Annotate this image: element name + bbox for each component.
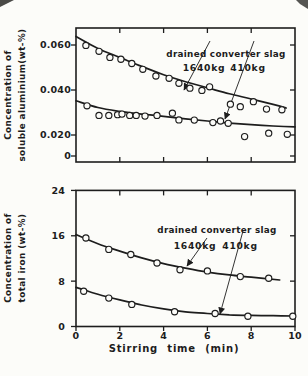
data-point-410kg <box>225 120 231 126</box>
data-point-1640kg <box>227 101 233 107</box>
y-tick-label: 0.020 <box>40 129 71 140</box>
data-point-1640kg <box>154 260 160 266</box>
data-point-1640kg <box>263 106 269 112</box>
data-point-410kg <box>106 295 112 301</box>
data-point-410kg <box>290 313 296 319</box>
scan-artifact-top-left <box>0 0 14 7</box>
data-point-410kg <box>81 288 87 294</box>
data-point-410kg <box>154 112 160 118</box>
data-point-1640kg <box>237 274 243 280</box>
data-point-410kg <box>119 111 125 117</box>
annotation-title: drained converter slag <box>157 225 276 235</box>
dual-scatter-figure: 0.0600.0400.0200Concentration ofsoluble … <box>0 0 308 376</box>
data-point-410kg <box>129 301 135 307</box>
data-point-1640kg <box>207 84 213 90</box>
x-axis-title: Stirring time (min) <box>109 343 240 354</box>
data-point-1640kg <box>176 80 182 86</box>
y-axis-label-line2: soluble aluminium(wt-%) <box>17 28 27 161</box>
y-tick-label: 0.060 <box>40 39 71 50</box>
y-tick-label: 8 <box>58 276 65 287</box>
data-point-410kg <box>245 313 251 319</box>
data-point-1640kg <box>83 235 89 241</box>
figure-canvas: 0.0600.0400.0200Concentration ofsoluble … <box>0 0 308 376</box>
data-point-410kg <box>210 120 216 126</box>
data-point-1640kg <box>153 73 159 79</box>
data-point-1640kg <box>107 54 113 60</box>
x-tick-label: 2 <box>116 330 123 341</box>
data-point-410kg <box>266 130 272 136</box>
data-point-410kg <box>106 112 112 118</box>
data-point-410kg <box>169 110 175 116</box>
x-tick-label: 8 <box>248 330 255 341</box>
x-tick-label: 4 <box>160 330 167 341</box>
data-point-1640kg <box>106 246 112 252</box>
data-point-410kg <box>172 309 178 315</box>
data-point-1640kg <box>204 268 210 274</box>
data-point-1640kg <box>83 42 89 48</box>
scan-artifact-top-right <box>296 0 308 9</box>
data-point-410kg <box>142 113 148 119</box>
annotation-label-1640kg: 1640kg <box>174 240 216 251</box>
y-tick-label: 0 <box>58 321 65 332</box>
data-point-1640kg <box>250 99 256 105</box>
data-point-1640kg <box>279 107 285 113</box>
data-point-1640kg <box>199 87 205 93</box>
data-point-1640kg <box>129 60 135 66</box>
data-point-1640kg <box>118 56 124 62</box>
data-point-410kg <box>96 112 102 118</box>
data-point-410kg <box>284 131 290 137</box>
data-point-1640kg <box>187 85 193 91</box>
y-tick-label: 0.040 <box>40 84 71 95</box>
data-point-410kg <box>217 118 223 124</box>
data-point-410kg <box>176 117 182 123</box>
x-tick-label: 6 <box>204 330 211 341</box>
data-point-1640kg <box>140 66 146 72</box>
x-tick-label: 10 <box>288 330 302 341</box>
data-point-410kg <box>212 310 218 316</box>
annotation-label-410kg: 410kg <box>222 240 257 251</box>
y-tick-label: 24 <box>51 185 65 196</box>
data-point-1640kg <box>237 104 243 110</box>
data-point-1640kg <box>177 267 183 273</box>
x-tick-label: 0 <box>73 330 80 341</box>
data-point-1640kg <box>266 275 272 281</box>
data-point-1640kg <box>166 75 172 81</box>
annotation-title: drained converter slag <box>166 49 285 59</box>
data-point-410kg <box>242 134 248 140</box>
data-point-410kg <box>191 117 197 123</box>
y-axis-label-line2: total iron (wt-%) <box>17 214 27 303</box>
data-point-1640kg <box>128 251 134 257</box>
data-point-410kg <box>127 112 133 118</box>
y-tick-label: 0 <box>64 150 71 161</box>
data-point-410kg <box>84 103 90 109</box>
data-point-1640kg <box>96 48 102 54</box>
data-point-410kg <box>133 112 139 118</box>
y-axis-label-line1: Concentration of <box>3 50 13 140</box>
y-axis-label-line1: Concentration of <box>3 213 13 303</box>
annotation-label-1640kg: 1640kg <box>183 62 225 73</box>
y-tick-label: 16 <box>51 230 65 241</box>
annotation-label-410kg: 410kg <box>230 62 265 73</box>
plot-frame-total-iron <box>76 190 295 326</box>
